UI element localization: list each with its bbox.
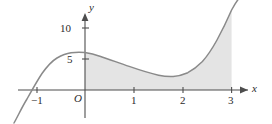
x-tick-label-minus1: −1 <box>31 95 43 106</box>
x-tick-label-1: 1 <box>131 95 137 106</box>
shaded-area-under-curve <box>85 10 232 90</box>
x-tick-label-3: 3 <box>228 95 234 106</box>
y-axis-label: y <box>89 2 94 13</box>
origin-label: O <box>74 93 82 104</box>
y-tick-label-10: 10 <box>60 23 71 34</box>
x-axis-label: x <box>252 83 257 94</box>
y-tick-label-5: 5 <box>67 54 73 65</box>
y-axis-arrow-icon <box>82 13 89 21</box>
x-tick-label-2: 2 <box>180 95 186 106</box>
graph-figure: 10 5 −1 1 2 3 O y x <box>0 0 272 124</box>
x-axis-arrow-icon <box>240 87 248 94</box>
